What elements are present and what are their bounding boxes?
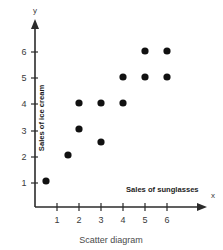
data-point-group: [42, 47, 170, 184]
y-tick-label-4: 4: [21, 99, 26, 109]
y-tick-label-5: 5: [21, 73, 26, 83]
scatter-plot-canvas: 1 2 3 4 5 6 1 2 3 4 5 6 y x Sal: [0, 0, 223, 250]
data-point: [75, 125, 82, 132]
data-point: [64, 151, 71, 158]
x-tick-label-3: 3: [98, 215, 103, 225]
data-point: [141, 73, 148, 80]
y-axis-series-label: Sales of ice cream: [37, 85, 46, 152]
y-tick-label-6: 6: [21, 47, 26, 57]
scatter-diagram-figure: 1 2 3 4 5 6 1 2 3 4 5 6 y x Sal: [0, 0, 223, 250]
y-axis-tick-labels: 1 2 3 4 5 6: [21, 47, 26, 188]
y-tick-label-2: 2: [21, 152, 26, 162]
x-tick-label-1: 1: [54, 215, 59, 225]
x-axis-tick-labels: 1 2 3 4 5 6: [54, 215, 169, 225]
y-axis-name-label: y: [33, 6, 37, 15]
x-tick-label-2: 2: [76, 215, 81, 225]
data-point: [141, 47, 148, 54]
data-point: [42, 177, 49, 184]
y-axis-arrowhead: [31, 19, 39, 29]
data-point: [119, 99, 126, 106]
x-axis-arrowhead: [197, 203, 207, 211]
data-point: [119, 73, 126, 80]
data-point: [163, 47, 170, 54]
x-axis-series-label: Sales of sunglasses: [126, 185, 199, 194]
data-point: [97, 138, 104, 145]
x-axis-name-label: x: [211, 191, 215, 200]
data-point: [75, 99, 82, 106]
x-axis: [35, 203, 207, 211]
y-tick-label-3: 3: [21, 126, 26, 136]
x-tick-label-6: 6: [164, 215, 169, 225]
data-point: [97, 99, 104, 106]
figure-caption: Scatter diagram: [79, 235, 143, 245]
x-tick-label-5: 5: [142, 215, 147, 225]
x-tick-label-4: 4: [120, 215, 125, 225]
y-tick-label-1: 1: [21, 178, 26, 188]
data-point: [163, 73, 170, 80]
